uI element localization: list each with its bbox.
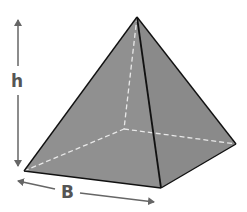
pyramid-diagram: h B <box>0 0 247 212</box>
base-arrow-right <box>80 193 154 202</box>
base-label: B <box>61 182 74 202</box>
base-arrow-left <box>18 181 55 189</box>
height-label: h <box>11 71 23 91</box>
